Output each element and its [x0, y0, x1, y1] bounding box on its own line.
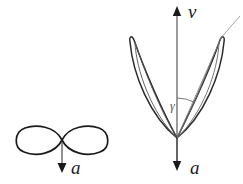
velocity-axis-arrowhead [173, 6, 181, 16]
gamma-angle-arc [177, 98, 194, 102]
left-lobe-curve [130, 37, 177, 138]
velocity-axis-label: v [188, 2, 196, 21]
left-lobe-inner-curve [135, 42, 177, 138]
tangent-ray-extension [219, 16, 240, 40]
left-acceleration-arrowhead [58, 163, 67, 173]
gamma-angle-label: γ [170, 100, 175, 112]
right-acceleration-arrowhead [173, 161, 181, 171]
right-acceleration-label: a [190, 158, 200, 177]
lemniscate-panel [16, 126, 108, 173]
slant-ray [177, 36, 222, 138]
two-lobe-panel [130, 6, 240, 171]
figure-container: a v a γ [0, 0, 243, 184]
figure-canvas [0, 0, 243, 184]
left-acceleration-label: a [71, 158, 81, 177]
